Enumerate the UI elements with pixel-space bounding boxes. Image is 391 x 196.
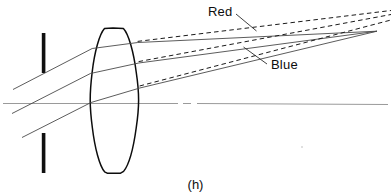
figure-caption: (h) <box>0 177 391 192</box>
incident-ray-1 <box>13 49 92 90</box>
ray-label-red: Red <box>208 4 232 19</box>
blue-ray-3 <box>140 31 377 88</box>
red-ray-2 <box>139 15 391 62</box>
optical-axis-right-segment <box>197 104 388 105</box>
aperture-stop-lower <box>42 133 46 173</box>
incident-ray-2 <box>12 74 90 114</box>
optical-diagram <box>0 0 391 196</box>
blue-refracted-rays <box>138 31 377 88</box>
red-refracted-rays <box>138 11 391 87</box>
incident-ray-3 <box>22 103 91 138</box>
internal-ray-3 <box>91 88 140 103</box>
scan-speck <box>301 146 303 148</box>
figure-canvas: Red Blue (h) <box>0 0 391 196</box>
red-ray-3 <box>140 20 391 86</box>
internal-ray-2 <box>90 63 138 74</box>
optical-axis <box>3 104 388 105</box>
blue-label-leader <box>244 47 268 64</box>
blue-ray-2 <box>139 31 377 63</box>
aperture-stop-upper <box>42 33 46 73</box>
ray-label-blue: Blue <box>271 57 298 72</box>
incident-rays <box>12 49 92 138</box>
